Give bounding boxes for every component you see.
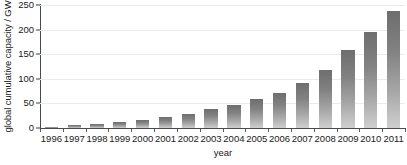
y-tick-label: 200: [12, 25, 34, 35]
x-tick-label: 2001: [155, 133, 176, 144]
bar: [364, 32, 377, 128]
bar: [159, 117, 172, 128]
y-axis-tick-labels: 050100150200250: [10, 0, 34, 133]
bar-chart-figure: global cumulative capacity / GW 05010015…: [0, 0, 407, 165]
x-tick-mark: [63, 129, 64, 132]
x-tick-mark: [314, 129, 315, 132]
y-tick-label: 50: [12, 99, 34, 109]
x-tick-mark: [223, 129, 224, 132]
x-tick-label: 2003: [201, 133, 222, 144]
x-tick-mark: [86, 129, 87, 132]
bar: [387, 11, 400, 128]
y-tick-label: 250: [12, 0, 34, 10]
bar: [90, 124, 103, 128]
x-tick-label: 2005: [246, 133, 267, 144]
x-tick-mark: [268, 129, 269, 132]
x-tick-mark: [154, 129, 155, 132]
x-tick-label: 2008: [315, 133, 336, 144]
bar: [250, 99, 263, 128]
x-tick-label: 2000: [132, 133, 153, 144]
bar: [45, 127, 58, 128]
x-axis-title: year: [40, 147, 406, 158]
y-tick-label: 0: [12, 123, 34, 133]
x-tick-mark: [245, 129, 246, 132]
x-tick-mark: [405, 129, 406, 132]
x-tick-label: 2011: [383, 133, 403, 144]
x-tick-label: 1998: [86, 133, 107, 144]
y-tick-label: 100: [12, 74, 34, 84]
x-tick-mark: [131, 129, 132, 132]
x-tick-label: 2002: [178, 133, 199, 144]
x-tick-mark: [177, 129, 178, 132]
bar: [273, 93, 286, 128]
bar: [341, 50, 354, 128]
x-tick-label: 1996: [41, 133, 62, 144]
x-tick-label: 1997: [64, 133, 85, 144]
bar-series: [40, 5, 405, 128]
plot-area: [40, 5, 405, 128]
bar: [136, 120, 149, 128]
x-tick-mark: [359, 129, 360, 132]
x-tick-mark: [337, 129, 338, 132]
bar: [319, 70, 332, 128]
bar: [68, 125, 81, 128]
x-tick-label: 2004: [223, 133, 244, 144]
x-tick-label: 2007: [292, 133, 313, 144]
x-tick-mark: [291, 129, 292, 132]
bar: [113, 122, 126, 128]
x-tick-mark: [40, 129, 41, 132]
bar: [182, 114, 195, 128]
x-tick-label: 2009: [337, 133, 358, 144]
x-tick-label: 2006: [269, 133, 290, 144]
x-tick-mark: [200, 129, 201, 132]
x-axis-tick-labels: 1996199719981999200020012002200320042005…: [40, 133, 406, 146]
x-tick-label: 1999: [109, 133, 130, 144]
x-tick-label: 2010: [360, 133, 381, 144]
bar: [296, 83, 309, 128]
x-tick-mark: [382, 129, 383, 132]
y-tick-label: 150: [12, 49, 34, 59]
bar: [227, 105, 240, 128]
x-tick-mark: [108, 129, 109, 132]
bar: [204, 109, 217, 128]
